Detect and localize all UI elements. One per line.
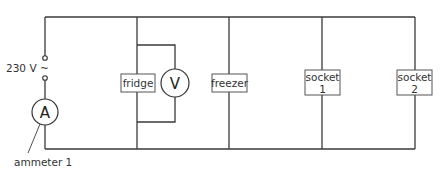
- freezer-component: freezer: [211, 74, 249, 92]
- socket1-component: socket 1: [305, 70, 340, 95]
- socket1-label: socket: [306, 71, 340, 83]
- freezer-label: freezer: [211, 77, 249, 89]
- fridge-label: fridge: [123, 77, 154, 89]
- socket2-component: socket 2: [397, 70, 432, 95]
- socket2-number: 2: [411, 83, 418, 95]
- fridge-component: fridge: [121, 74, 155, 92]
- ammeter-symbol: A: [40, 104, 51, 122]
- voltmeter-lead-top: [137, 45, 175, 69]
- supply-terminal-bottom: [43, 76, 48, 81]
- socket1-number: 1: [319, 83, 326, 95]
- supply-terminal-top: [43, 56, 48, 61]
- voltmeter: V: [161, 69, 189, 97]
- ammeter-pointer-line: [28, 124, 40, 153]
- voltmeter-lead-bottom: [137, 97, 175, 122]
- supply-label: 230 V ~: [6, 62, 49, 74]
- circuit-diagram: 230 V ~ A ammeter 1 fridge V freezer soc…: [0, 0, 444, 170]
- ammeter-label: ammeter 1: [14, 156, 72, 168]
- ac-supply: 230 V ~: [6, 56, 49, 81]
- socket2-label: socket: [398, 71, 432, 83]
- voltmeter-symbol: V: [170, 75, 181, 93]
- ammeter: A ammeter 1: [14, 99, 72, 168]
